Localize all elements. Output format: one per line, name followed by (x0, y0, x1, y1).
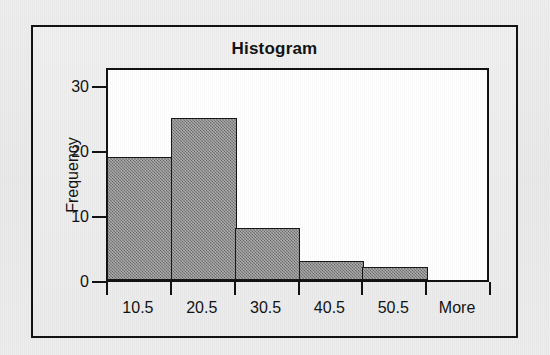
chart-title: Histogram (33, 39, 516, 59)
x-axis-tick (106, 282, 108, 295)
histogram-bar (171, 118, 237, 280)
y-axis-tick-label: 20 (49, 144, 89, 160)
histogram-bar (235, 228, 301, 280)
x-axis-tick-label: 10.5 (122, 299, 153, 317)
histogram-bar (362, 267, 428, 280)
x-axis-tick (361, 282, 363, 295)
x-axis-tick-label: 40.5 (314, 299, 345, 317)
chart-frame: Histogram Frequency 0102030 10.520.530.5… (31, 25, 518, 338)
x-axis-tick (489, 282, 491, 295)
screenshot-page: Histogram Frequency 0102030 10.520.530.5… (0, 0, 550, 355)
y-axis-tick-label: 0 (49, 274, 89, 290)
y-axis-tick-label: 30 (49, 79, 89, 95)
y-axis-tick-label: 10 (49, 209, 89, 225)
histogram-bar (107, 157, 173, 280)
histogram-bar (299, 261, 365, 280)
x-axis-tick (425, 282, 427, 295)
x-axis-tick-label: 50.5 (378, 299, 409, 317)
x-axis-tick (298, 282, 300, 295)
y-axis-labels: 0102030 (39, 27, 89, 336)
plot-area (106, 68, 489, 282)
x-axis-tick (170, 282, 172, 295)
x-axis-tick-label: 30.5 (250, 299, 281, 317)
bars-container (108, 70, 487, 280)
x-axis-tick-label: 20.5 (186, 299, 217, 317)
x-axis-tick (234, 282, 236, 295)
x-axis-tick-label: More (439, 299, 475, 317)
